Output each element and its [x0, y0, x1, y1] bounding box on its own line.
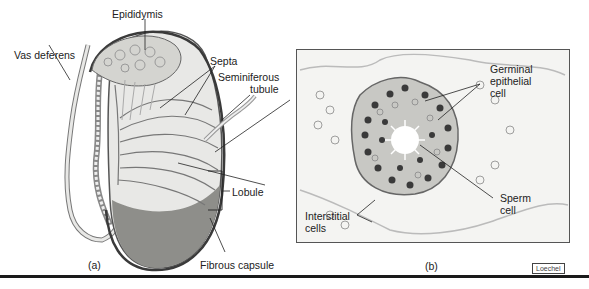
credit-label: Loechel: [532, 263, 565, 274]
label-sperm: Sperm: [500, 192, 531, 204]
caption-a: (a): [88, 259, 101, 271]
label-lobule: Lobule: [232, 186, 264, 198]
label-tubule: tubule: [250, 83, 279, 95]
label-germinal: Germinal: [490, 63, 533, 75]
label-sperm-cell: cell: [500, 204, 516, 216]
testis-illustration: [0, 0, 589, 289]
caption-b: (b): [425, 260, 438, 272]
label-cell: cell: [490, 87, 506, 99]
label-interstitial-cells: cells: [305, 222, 326, 234]
bottom-rule: [0, 275, 589, 278]
label-interstitial: Interstitial: [305, 210, 350, 222]
label-septa: Septa: [210, 55, 237, 67]
label-vas-deferens: Vas deferens: [14, 49, 75, 61]
label-epithelial: epithelial: [490, 75, 531, 87]
label-fibrous-capsule: Fibrous capsule: [200, 259, 274, 271]
label-seminiferous: Seminiferous: [218, 71, 279, 83]
label-epididymis: Epididymis: [112, 8, 163, 20]
